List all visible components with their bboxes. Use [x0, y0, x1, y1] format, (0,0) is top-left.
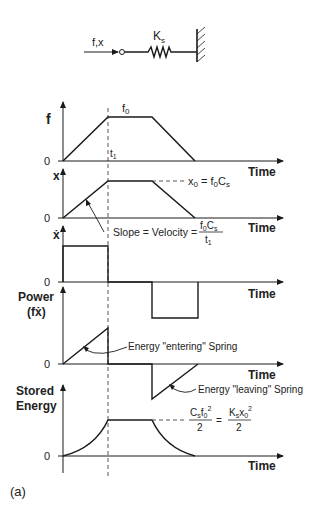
x-y-label: x — [53, 169, 60, 183]
slope-label: Slope = Velocity = — [113, 226, 197, 238]
energy-y-label: Stored — [16, 384, 54, 398]
displacement-panel: x 0 Time x0 = f0Cs Slope = Velocity = f0… — [44, 169, 283, 246]
force-panel: f 0 Time f0 t1 — [44, 102, 283, 179]
time-label: Time — [248, 165, 276, 179]
slope-denominator: t1 — [205, 234, 212, 246]
f0-label: f0 — [122, 102, 130, 116]
zero-label: 0 — [44, 276, 50, 288]
equals-sign: = — [216, 415, 222, 426]
zero-label: 0 — [44, 212, 50, 224]
zero-label: 0 — [44, 358, 50, 370]
energy-curve — [63, 420, 195, 456]
node-circle — [120, 50, 125, 55]
velocity-y-label: ẋ — [53, 228, 60, 242]
displacement-curve — [63, 181, 195, 218]
time-label: Time — [248, 221, 276, 235]
leaving-label: Energy "leaving" Spring — [198, 384, 303, 395]
spring-energy-diagram: f,x Ks f 0 Time f0 t1 x 0 Time x0 = f0 — [0, 0, 320, 517]
time-label: Time — [248, 287, 276, 301]
force-curve — [63, 117, 195, 161]
time-label: Time — [248, 459, 276, 473]
zero-label: 0 — [44, 155, 50, 167]
formula-left-num: Csf02 — [190, 405, 211, 419]
power-panel: Power (fẋ) 0 Time Energy "entering" Spri… — [18, 287, 303, 399]
figure-caption: (a) — [10, 484, 26, 499]
force-y-label: f — [46, 111, 51, 127]
spring-label: Ks — [153, 29, 165, 45]
entering-pointer — [86, 347, 127, 353]
time-label: Time — [248, 368, 276, 382]
stored-energy-panel: Stored Energy 0 Time Csf02 2 = Ksx02 2 — [16, 384, 283, 473]
formula-right-den: 2 — [236, 422, 242, 433]
formula-right-num: Ksx02 — [229, 405, 252, 419]
power-y-sublabel: (fẋ) — [27, 305, 46, 319]
velocity-panel: ẋ 0 Time — [44, 226, 283, 318]
leaving-pointer — [172, 388, 196, 392]
x0-annotation: x0 = f0Cs — [188, 175, 230, 189]
energy-y-sublabel: Energy — [16, 399, 57, 413]
formula-left-den: 2 — [197, 422, 203, 433]
spring-zigzag — [125, 47, 198, 57]
slope-numerator: f0Cs — [200, 220, 218, 232]
t1-label: t1 — [110, 148, 117, 160]
spring-schematic: f,x Ks — [84, 27, 205, 62]
input-label: f,x — [92, 36, 104, 48]
wall-hatch — [197, 27, 205, 62]
zero-label: 0 — [44, 450, 50, 462]
power-y-label: Power — [18, 290, 54, 304]
entering-label: Energy "entering" Spring — [128, 341, 237, 352]
